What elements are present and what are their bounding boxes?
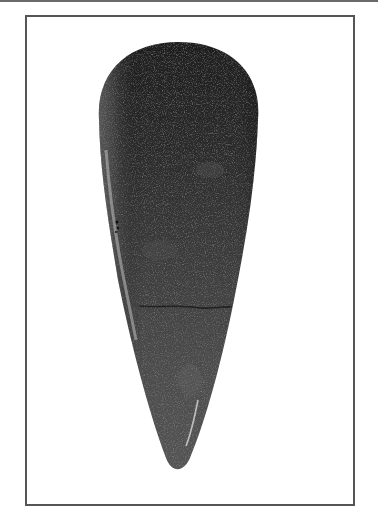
page: Photograph of a dark polished stone axe … [0, 0, 378, 516]
axe-head [90, 40, 265, 480]
stone-axe-photo [0, 0, 378, 516]
